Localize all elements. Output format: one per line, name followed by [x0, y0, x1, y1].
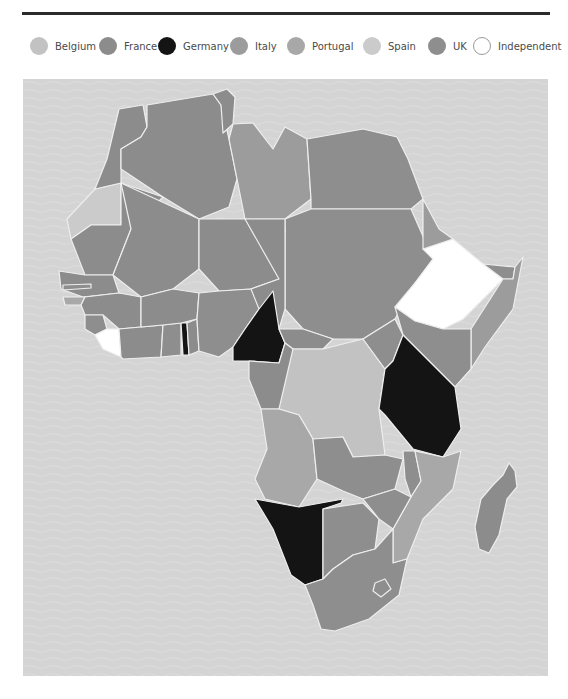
legend-item-france: France [99, 35, 157, 57]
legend-swatch-icon [158, 37, 176, 55]
legend-swatch-icon [287, 37, 305, 55]
header-rule [22, 12, 550, 15]
legend-label: Italy [255, 41, 277, 52]
legend-swatch-icon [473, 37, 491, 55]
legend-item-italy: Italy [230, 35, 277, 57]
legend-swatch-icon [363, 37, 381, 55]
legend-item-belgium: Belgium [30, 35, 96, 57]
legend-item-independent: Independent [473, 35, 561, 57]
legend-label: Independent [498, 41, 561, 52]
legend-item-germany: Germany [158, 35, 229, 57]
legend-item-spain: Spain [363, 35, 416, 57]
legend-swatch-icon [99, 37, 117, 55]
legend-label: Spain [388, 41, 416, 52]
legend-swatch-icon [230, 37, 248, 55]
legend: BelgiumFranceGermanyItalyPortugalSpainUK… [30, 35, 550, 57]
legend-swatch-icon [428, 37, 446, 55]
africa-map-svg [23, 79, 548, 676]
legend-swatch-icon [30, 37, 48, 55]
legend-label: France [124, 41, 157, 52]
region-gold-coast[interactable] [161, 323, 181, 357]
legend-item-portugal: Portugal [287, 35, 353, 57]
map-of-colonial-africa [23, 79, 548, 676]
legend-label: UK [453, 41, 467, 52]
region-ivory-coast[interactable] [119, 325, 163, 359]
legend-label: Portugal [312, 41, 353, 52]
legend-label: Germany [183, 41, 229, 52]
legend-item-uk: UK [428, 35, 467, 57]
legend-label: Belgium [55, 41, 96, 52]
